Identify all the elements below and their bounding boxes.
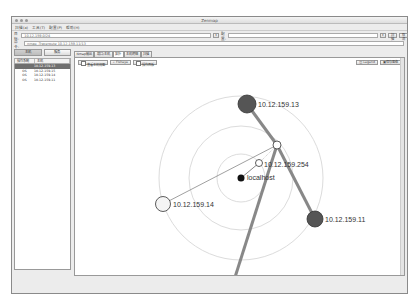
node-label: 10.12.159.14 [173, 201, 214, 208]
fisheye-button[interactable]: ⌕ Fisheye [110, 60, 131, 65]
node-localhost[interactable] [238, 175, 245, 182]
command-label: 命令: [14, 39, 22, 49]
node-label: localhost [247, 174, 275, 181]
node-10-12-159-13[interactable] [238, 95, 256, 113]
hosts-viewer-icon [81, 61, 86, 66]
sidebar: 主机 服务 操作系统 主机 10.12.159.13 OS10.12.159.1… [14, 49, 71, 275]
title-bar: Zenmap [12, 17, 407, 24]
target-dropdown-button[interactable]: ▾ [213, 33, 219, 38]
legend-button[interactable]: ◫ Legend [356, 60, 378, 65]
node-gateway[interactable] [256, 160, 263, 167]
node-label: 10.12.159.13 [258, 101, 299, 108]
column-host[interactable]: 主机 [35, 59, 70, 63]
topology-graph[interactable]: localhost 10.12.159.254 10.12.159.13 10.… [75, 68, 401, 275]
node-router[interactable] [273, 141, 281, 149]
menu-scan[interactable]: 扫描(a) [15, 25, 28, 30]
node-label: 10.12.159.254 [264, 161, 309, 168]
app-window: Zenmap 扫描(a) 工具(T) 配置(P) 帮助(H) 目标: 10.12… [11, 16, 408, 294]
menu-profile[interactable]: 配置(P) [49, 25, 62, 30]
command-row: 命令: nmap -Traceroute 10.12.159.11/13 [14, 40, 405, 47]
tab-services[interactable]: 服务 [44, 49, 72, 56]
magnifier-icon: ⌕ [113, 60, 115, 64]
target-input[interactable]: 10.12.159.0/24 [21, 33, 211, 38]
host-list: 10.12.159.13 OS10.12.159.15 OS10.12.159.… [14, 64, 71, 270]
profile-label: 配置: [221, 31, 226, 41]
profile-input[interactable] [228, 33, 378, 38]
os-icon: OS [15, 69, 34, 73]
save-image-button[interactable]: ▣保存图像 [380, 60, 401, 65]
main-area: Nmap输出 端口/主机 拓扑 主机明细 扫描 查看主机视图 ⌕ Fisheye… [74, 51, 405, 277]
os-icon: OS [15, 73, 34, 77]
scan-button[interactable]: 扫描 [388, 33, 397, 38]
node-10-12-159-14[interactable] [156, 197, 171, 212]
profile-dropdown-button[interactable]: ▾ [380, 33, 386, 38]
edge-router-11 [277, 145, 315, 219]
hosts-viewer-button[interactable]: 查看主机视图 [78, 60, 108, 65]
controls-button[interactable]: 操作面板 [133, 60, 157, 65]
menu-help[interactable]: 帮助(H) [66, 25, 80, 30]
cancel-button[interactable]: 取消 [399, 33, 408, 38]
node-label: 10.12.159.11 [325, 216, 365, 223]
vertical-scrollbar[interactable] [400, 58, 404, 275]
node-10-12-159-11[interactable] [307, 211, 323, 227]
window-title: Zenmap [12, 18, 407, 23]
target-row: 目标: 10.12.159.0/24 ▾ 配置: ▾ 扫描 取消 [14, 32, 405, 39]
os-icon: OS [15, 78, 34, 82]
controls-icon [136, 61, 141, 66]
host-row[interactable]: OS10.12.159.11 [15, 78, 70, 83]
menu-bar: 扫描(a) 工具(T) 配置(P) 帮助(H) [12, 24, 407, 31]
tab-hosts[interactable]: 主机 [14, 49, 42, 56]
topology-panel: 查看主机视图 ⌕ Fisheye 操作面板 ◫ Legend ▣保存图像 [74, 57, 405, 276]
command-input[interactable]: nmap -Traceroute 10.12.159.11/13 [24, 41, 404, 46]
column-os[interactable]: 操作系统 [15, 59, 35, 63]
menu-tools[interactable]: 工具(T) [32, 25, 45, 30]
legend-icon: ◫ [359, 60, 362, 64]
